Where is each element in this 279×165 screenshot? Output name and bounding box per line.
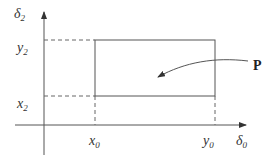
tick-y2: y2 [15, 40, 28, 57]
tick-y0: y0 [201, 133, 214, 150]
tick-x0: x0 [88, 133, 100, 150]
region-label-p: P [253, 58, 262, 73]
y-axis-label: δ2 [14, 6, 26, 23]
tick-x2: x2 [16, 96, 28, 113]
diagram-canvas: δ2 δ0 y2 x2 x0 y0 P [0, 0, 279, 165]
region-rectangle [95, 40, 215, 96]
region-pointer-arrow [158, 60, 248, 77]
x-axis-label: δ0 [236, 133, 248, 150]
